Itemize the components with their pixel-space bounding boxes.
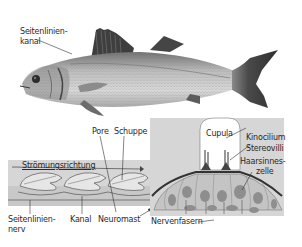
label-canal: Kanal xyxy=(70,215,91,224)
label-hair-cell-2: zelle xyxy=(256,167,274,176)
label-nerve-fibers: Nervenfasern xyxy=(151,217,203,226)
label-stereovilli: Stereovilli xyxy=(246,144,284,153)
label-neuromast: Neuromast xyxy=(98,215,140,224)
label-lateral-line-canal-2: kanal xyxy=(20,37,41,46)
canal-cross-section xyxy=(8,136,151,216)
label-kinocilium: Kinocilium xyxy=(246,133,285,142)
label-lateral-line-nerve-1: Seitenlinien- xyxy=(8,215,55,224)
lateral-line-diagram xyxy=(0,0,302,247)
label-cupula: Cupula xyxy=(206,129,233,138)
label-hair-cell-1: Haarsinnes- xyxy=(240,157,285,166)
label-scale: Schuppe xyxy=(114,127,147,136)
label-pore: Pore xyxy=(92,127,109,136)
label-lateral-line-canal-1: Seitenlinien- xyxy=(20,27,67,36)
label-lateral-line-nerve-2: nerv xyxy=(8,225,25,234)
fish-photo xyxy=(20,28,278,116)
label-flow-direction: Strömungsrichtung xyxy=(22,161,95,170)
